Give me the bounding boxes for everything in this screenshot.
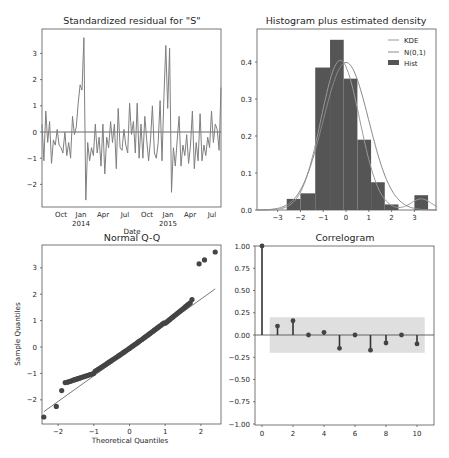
residual-title: Standardized residual for "S" [63,15,200,26]
xtick: Jul [207,211,217,219]
qq-yticks: 3210−1−2 [27,264,42,404]
ytick: −1.00 [229,421,250,429]
ytick: 1.00 [234,243,250,251]
acf-yticks: 1.000.750.500.250.00−0.25−0.50−0.75−1.00 [229,243,255,429]
qq-title: Normal Q-Q [104,232,160,243]
histogram-panel: Histogram plus estimated density −3−2−10… [241,15,437,222]
xtick: 3 [412,214,416,222]
xtick: 2 [389,214,393,222]
xtick: 6 [353,430,358,438]
qq-point [63,380,68,385]
acf-marker [291,318,296,323]
xtick: −2 [295,214,305,222]
acf-marker [260,244,265,249]
hist-bar [287,199,301,210]
xtick: Oct [55,211,67,219]
correlogram-panel: Correlogram 0246810 1.000.750.500.250.00… [229,232,434,438]
qq-panel: Normal Q-Q −2−1012 3210−1−2 Theoretical … [13,232,221,445]
hist-bar [414,195,428,210]
xtick: 10 [413,430,422,438]
acf-marker [275,324,280,329]
ytick: 0.50 [234,287,250,295]
ytick: 0 [33,344,37,352]
legend-normal-label: N(0,1) [404,49,426,57]
ytick: 0.00 [234,332,250,340]
ytick: 0.4 [241,59,253,67]
ytick: −0.25 [229,354,250,362]
acf-xticks: 0246810 [260,425,422,438]
xtick: 1 [367,214,371,222]
xtick: 0 [344,214,348,222]
qq-point [41,414,46,419]
xtick-year: 2015 [159,220,177,228]
residual-xticks: Oct Jan 2014 Apr Jul Oct Jan 2015 Apr Ju… [55,211,216,228]
xtick: −3 [272,214,282,222]
acf-marker [384,341,389,346]
ytick: 0.75 [234,265,250,273]
xtick: Oct [141,211,153,219]
histogram-xticks: −3−2−10123 [272,210,416,222]
qq-axes [42,245,221,424]
legend-hist-label: Hist [404,60,418,68]
diagnostics-figure: Standardized residual for "S" 3210−1−2 O… [0,0,449,458]
qq-point [202,257,207,262]
hist-bar [300,193,315,210]
ytick: 1 [33,317,37,325]
histogram-title: Histogram plus estimated density [266,15,427,26]
qq-point [189,297,194,302]
xtick: Jan [162,211,174,219]
ytick: 1 [33,102,37,110]
ytick: 0.1 [241,170,252,178]
xtick: 1 [163,428,167,436]
acf-marker [337,346,342,351]
ytick: 0.25 [234,309,250,317]
xtick: −1 [318,214,328,222]
xtick: 0 [127,428,131,436]
qq-xlabel: Theoretical Quantiles [91,436,169,445]
qq-ylabel: Sample Quantiles [13,302,22,366]
xtick: −2 [53,428,63,436]
acf-marker [415,342,420,347]
residual-axes [42,29,221,207]
ytick: −0.50 [229,376,250,384]
legend-hist-swatch [388,60,399,65]
qq-point [213,249,218,254]
acf-marker [353,333,358,338]
xtick-year: 2014 [72,220,90,228]
xtick: Apr [184,211,196,219]
legend-kde-label: KDE [404,37,418,45]
qq-point [59,388,64,393]
residual-panel: Standardized residual for "S" 3210−1−2 O… [27,15,221,236]
ytick: 3 [33,264,37,272]
ytick: 0.2 [241,133,252,141]
correlogram-title: Correlogram [315,232,374,243]
histogram-yticks: 0.00.10.20.30.4 [241,59,257,215]
ytick: −2 [27,181,37,189]
qq-point [54,404,59,409]
xtick: Jul [120,211,130,219]
acf-marker [399,333,404,338]
xtick: 4 [322,430,327,438]
ytick: −0.75 [229,398,250,406]
acf-marker [322,330,327,335]
xtick: 8 [384,430,388,438]
residual-yticks: 3210−1−2 [27,50,42,189]
xtick: Apr [97,211,109,219]
qq-point [197,261,202,266]
ytick: 2 [33,291,37,299]
ytick: 0 [33,129,37,137]
ytick: −1 [27,370,37,378]
xtick: −1 [89,428,99,436]
qq-xticks: −2−1012 [53,424,203,436]
ytick: −1 [27,155,37,163]
acf-marker [306,333,311,338]
ytick: −2 [27,396,37,404]
ytick: 2 [33,76,37,84]
xtick: Jan [75,211,87,219]
acf-marker [368,348,373,353]
ytick: 3 [33,50,37,58]
ytick: 0.3 [241,96,252,104]
xtick: 2 [291,430,295,438]
xtick: 0 [260,430,264,438]
xtick: 2 [199,428,203,436]
